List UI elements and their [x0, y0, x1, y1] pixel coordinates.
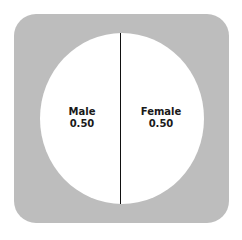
- slice-label-male: Male 0.50: [47, 106, 117, 130]
- slice-name: Male: [47, 106, 117, 118]
- slice-divider: [120, 33, 121, 204]
- slice-value: 0.50: [126, 118, 196, 130]
- slice-value: 0.50: [47, 118, 117, 130]
- slice-name: Female: [126, 106, 196, 118]
- slice-label-female: Female 0.50: [126, 106, 196, 130]
